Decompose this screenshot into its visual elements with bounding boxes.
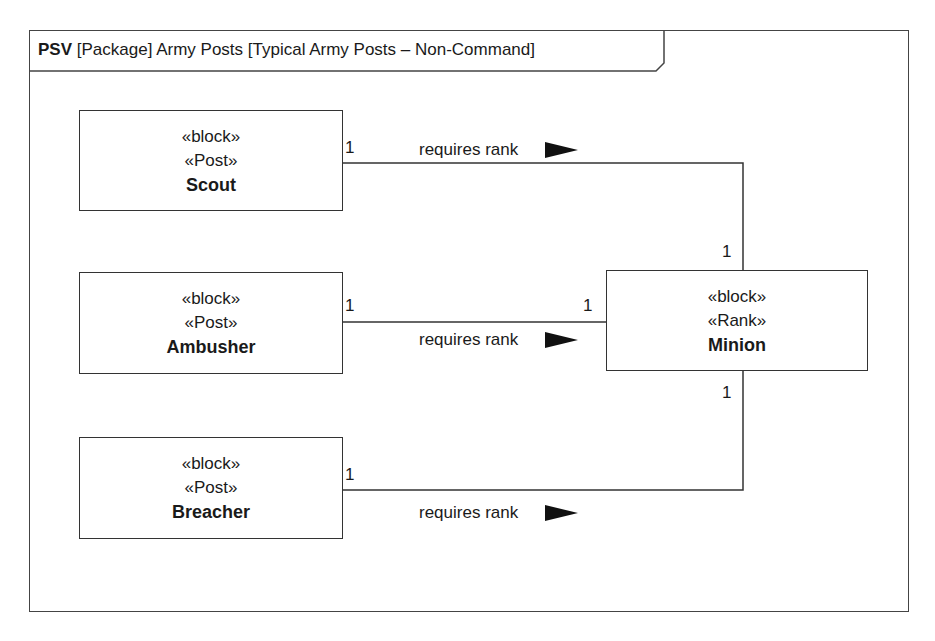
multiplicity-minion-bottom: 1	[722, 383, 731, 403]
association-label: requires rank	[419, 503, 518, 523]
stereotype: «Rank»	[708, 309, 767, 333]
frame-title-text: [Package] Army Posts [Typical Army Posts…	[77, 40, 535, 59]
stereotype: «block»	[182, 125, 241, 149]
direction-arrow-icon	[545, 332, 578, 348]
multiplicity-minion-left: 1	[583, 296, 592, 316]
frame-kind: PSV	[38, 40, 72, 59]
multiplicity-ambusher: 1	[345, 296, 354, 316]
block-name: Scout	[186, 173, 236, 197]
block-minion[interactable]: «block» «Rank» Minion	[606, 270, 868, 371]
block-name: Minion	[708, 333, 766, 357]
multiplicity-minion-top: 1	[722, 242, 731, 262]
block-breacher[interactable]: «block» «Post» Breacher	[79, 437, 343, 539]
direction-arrow-icon	[545, 142, 578, 158]
direction-arrow-icon	[545, 505, 578, 521]
association-label: requires rank	[419, 140, 518, 160]
breacher-minion-line	[343, 370, 743, 490]
frame-title: PSV [Package] Army Posts [Typical Army P…	[29, 30, 543, 70]
block-scout[interactable]: «block» «Post» Scout	[79, 110, 343, 211]
stereotype: «block»	[182, 287, 241, 311]
stereotype: «block»	[182, 452, 241, 476]
stereotype: «Post»	[185, 476, 238, 500]
scout-minion-line	[343, 163, 743, 270]
stereotype: «Post»	[185, 311, 238, 335]
block-name: Breacher	[172, 500, 250, 524]
association-label: requires rank	[419, 330, 518, 350]
block-ambusher[interactable]: «block» «Post» Ambusher	[79, 272, 343, 374]
multiplicity-breacher: 1	[345, 465, 354, 485]
multiplicity-scout: 1	[345, 138, 354, 158]
stereotype: «block»	[708, 285, 767, 309]
block-name: Ambusher	[166, 335, 255, 359]
stereotype: «Post»	[185, 149, 238, 173]
